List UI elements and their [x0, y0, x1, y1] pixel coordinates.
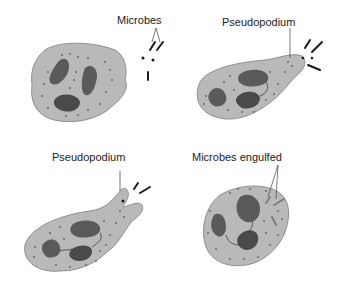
phagocyte-cell-illustration [0, 145, 170, 290]
label-pseudopodium: Pseudopodium [222, 16, 295, 28]
panel-microbes-engulfed: Microbes engulfed [170, 145, 339, 290]
label-pseudopodium: Pseudopodium [52, 151, 125, 163]
panel-microbes-approach: Microbes [0, 0, 170, 145]
label-microbes: Microbes [117, 14, 162, 26]
panel-pseudopodium-forming: Pseudopodium [170, 0, 339, 145]
phagocyte-cell-illustration [170, 145, 339, 290]
panel-pseudopodium-surrounding: Pseudopodium [0, 145, 170, 290]
label-microbes-engulfed: Microbes engulfed [192, 151, 282, 163]
